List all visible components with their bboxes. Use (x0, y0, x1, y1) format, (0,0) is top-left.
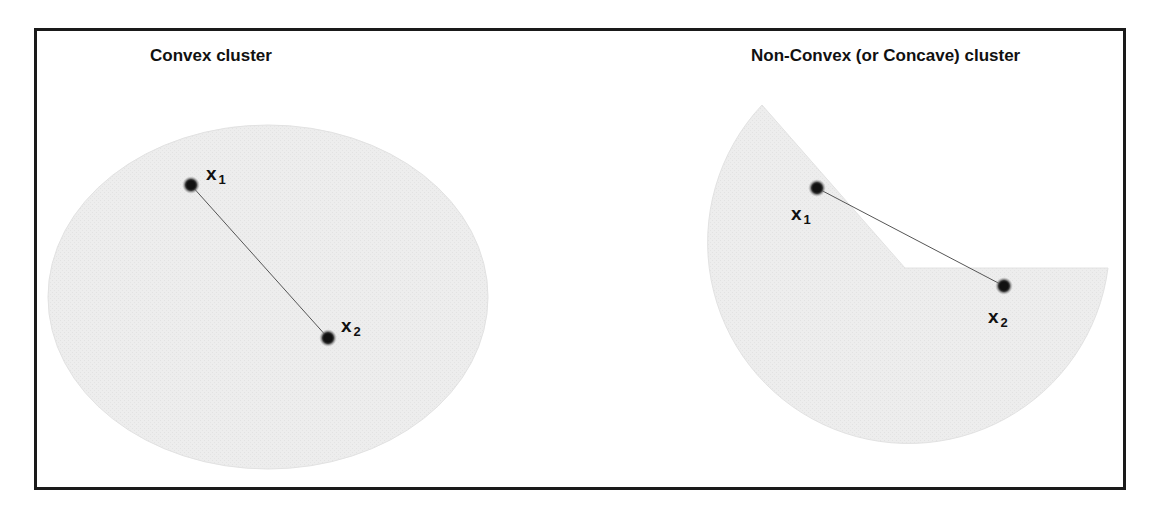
diagram-canvas: Convex cluster Non-Convex (or Concave) c… (0, 0, 1152, 519)
point-x1-convex-icon (182, 176, 200, 194)
point-x2-nonconvex-icon (995, 277, 1013, 295)
convex-cluster: x1 x2 (48, 125, 488, 469)
convex-cluster-shape (48, 125, 488, 469)
diagram-svg: x1 x2 x1 x2 (0, 0, 1152, 519)
point-x1-nonconvex-icon (808, 179, 826, 197)
point-x2-convex-icon (319, 329, 337, 347)
non-convex-cluster-shape (708, 105, 1108, 443)
non-convex-cluster: x1 x2 (708, 105, 1108, 443)
